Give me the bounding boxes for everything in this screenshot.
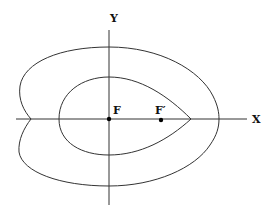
y-axis-label: Y — [109, 12, 118, 25]
x-axis-label: X — [252, 113, 261, 126]
inner-curve — [59, 77, 191, 155]
cartesian-oval-diagram: F F′ X Y — [0, 0, 275, 217]
focus-f-point — [107, 117, 111, 121]
focus-f-label: F — [113, 104, 121, 117]
focus-f-prime-point — [159, 118, 163, 122]
focus-f-prime-label: F′ — [155, 104, 166, 117]
